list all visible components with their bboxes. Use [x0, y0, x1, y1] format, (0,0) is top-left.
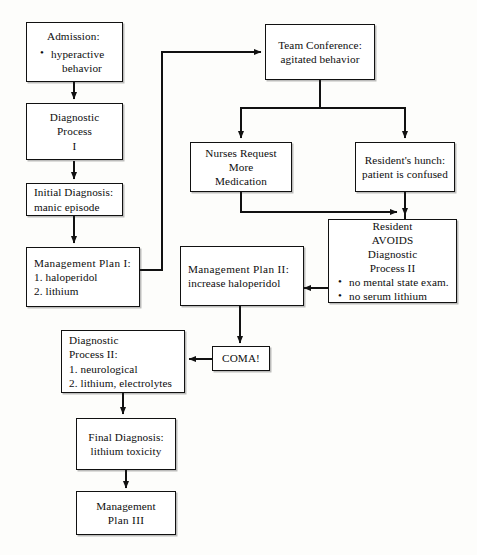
management-plan-iii-line-2: Plan III	[108, 513, 145, 527]
node-management-plan-ii[interactable]: Management Plan II: increase haloperidol	[180, 246, 304, 306]
resident-avoids-bullet-2: no serum lithium	[338, 289, 427, 303]
team-conference-line-2: agitated behavior	[280, 52, 359, 66]
management-plan-ii-line-1: Management Plan II:	[188, 262, 289, 276]
team-conference-line-1: Team Conference:	[278, 38, 362, 52]
node-nurses-request[interactable]: Nurses Request More Medication	[190, 142, 292, 192]
node-final-diagnosis[interactable]: Final Diagnosis: lithium toxicity	[76, 418, 176, 470]
nurses-request-line-3: Medication	[215, 174, 267, 188]
diagnostic-process-ii-line-4: 2. lithium, electrolytes	[69, 376, 172, 390]
diagnostic-process-i-line-2: Process	[57, 124, 92, 138]
resident-avoids-line-2: AVOIDS	[372, 233, 413, 247]
management-plan-i-line-1: Management Plan I:	[34, 256, 131, 270]
residents-hunch-line-2: patient is confused	[362, 167, 448, 181]
node-diagnostic-process-i[interactable]: Diagnostic Process I	[26, 103, 123, 160]
management-plan-iii-line-1: Management	[96, 499, 155, 513]
management-plan-i-line-3: 2. lithium	[34, 284, 79, 298]
diagnostic-process-ii-line-3: 1. neurological	[69, 362, 138, 376]
diagnostic-process-i-line-1: Diagnostic	[50, 110, 99, 124]
nurses-request-line-1: Nurses Request	[205, 146, 276, 160]
residents-hunch-line-1: Resident's hunch:	[365, 153, 445, 167]
diagnostic-process-i-line-3: I	[73, 139, 77, 153]
node-management-plan-iii[interactable]: Management Plan III	[76, 491, 176, 535]
initial-diagnosis-line-2: manic episode	[34, 200, 100, 214]
initial-diagnosis-line-1: Initial Diagnosis:	[34, 185, 113, 199]
node-admission[interactable]: Admission: hyperactive behavior	[26, 22, 123, 82]
node-team-conference[interactable]: Team Conference: agitated behavior	[265, 24, 375, 80]
admission-bullet-1-cont: behavior	[40, 61, 102, 75]
flowchart-page: Admission: hyperactive behavior Diagnost…	[0, 0, 477, 555]
node-residents-hunch[interactable]: Resident's hunch: patient is confused	[355, 142, 455, 192]
node-management-plan-i[interactable]: Management Plan I: 1. haloperidol 2. lit…	[26, 247, 140, 307]
final-diagnosis-line-1: Final Diagnosis:	[88, 430, 163, 444]
resident-avoids-line-4: Process II	[370, 261, 415, 275]
admission-title: Admission:	[34, 29, 100, 43]
node-resident-avoids[interactable]: Resident AVOIDS Diagnostic Process II no…	[328, 219, 457, 303]
resident-avoids-line-3: Diagnostic	[368, 247, 417, 261]
resident-avoids-line-1: Resident	[373, 219, 413, 233]
node-coma[interactable]: COMA!	[212, 346, 270, 371]
admission-bullet-1: hyperactive	[40, 47, 104, 61]
node-diagnostic-process-ii[interactable]: Diagnostic Process II: 1. neurological 2…	[61, 330, 185, 393]
coma-label: COMA!	[222, 351, 260, 365]
diagnostic-process-ii-line-1: Diagnostic	[69, 333, 118, 347]
diagnostic-process-ii-line-2: Process II:	[69, 347, 118, 361]
nurses-request-line-2: More	[229, 160, 254, 174]
final-diagnosis-line-2: lithium toxicity	[91, 444, 162, 458]
management-plan-ii-line-2: increase haloperidol	[188, 276, 280, 290]
management-plan-i-line-2: 1. haloperidol	[34, 270, 98, 284]
node-initial-diagnosis[interactable]: Initial Diagnosis: manic episode	[26, 183, 123, 216]
resident-avoids-bullet-1: no mental state exam.	[338, 275, 449, 289]
